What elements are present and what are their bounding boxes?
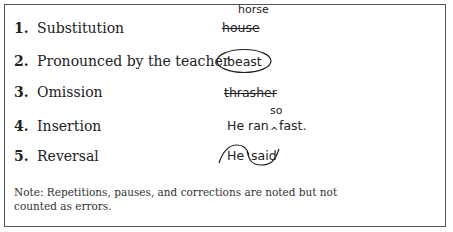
item-label: Substitution <box>37 20 124 36</box>
item-number: 2. <box>14 53 29 69</box>
item-number: 3. <box>14 84 29 100</box>
reversal-word-1: He <box>227 148 244 163</box>
footnote: Note: Repetitions, pauses, and correctio… <box>14 185 374 213</box>
item-reversal: 5. Reversal <box>14 148 99 164</box>
caret-icon: ^ <box>270 126 278 137</box>
substitution-example: house <box>222 20 260 35</box>
item-number: 5. <box>14 148 29 164</box>
item-insertion: 4. Insertion <box>14 118 101 134</box>
item-number: 4. <box>14 118 29 134</box>
item-number: 1. <box>14 20 29 36</box>
item-substitution: 1. Substitution <box>14 20 124 36</box>
item-label: Reversal <box>37 148 99 164</box>
item-label: Omission <box>37 84 103 100</box>
item-label: Insertion <box>37 118 101 134</box>
pronounced-example: beast <box>227 54 262 69</box>
omission-example: thrasher <box>224 85 277 100</box>
substitution-annotation: horse <box>238 3 269 16</box>
insertion-annotation: so <box>270 104 282 117</box>
reversal-word-2: said <box>251 148 277 163</box>
item-pronounced-by-teacher: 2. Pronounced by the teacher <box>14 53 229 69</box>
insertion-example-after: fast. <box>279 118 306 133</box>
item-label: Pronounced by the teacher <box>37 53 229 69</box>
insertion-example-before: He ran <box>227 118 269 133</box>
item-omission: 3. Omission <box>14 84 103 100</box>
